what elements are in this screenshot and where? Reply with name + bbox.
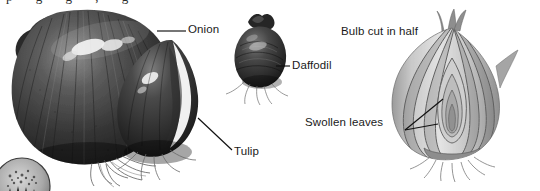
leader-tulip: [198, 118, 232, 150]
bulb-artwork: [0, 0, 540, 191]
circular-inset-graphic: [0, 158, 50, 191]
label-bulb-cut-in-half: Bulb cut in half: [341, 26, 418, 38]
cut-bulb-roots: [410, 157, 495, 182]
label-tulip: Tulip: [234, 146, 259, 158]
label-onion: Onion: [188, 24, 219, 36]
label-daffodil: Daffodil: [292, 60, 332, 72]
daffodil-bulb-graphic: [226, 14, 288, 105]
label-swollen-leaves: Swollen leaves: [305, 117, 383, 129]
illustration-canvas: p g g , g: [0, 0, 540, 191]
